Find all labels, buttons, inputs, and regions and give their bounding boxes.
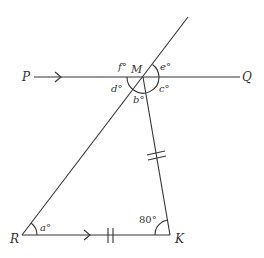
angle-arc-a (31, 223, 37, 235)
transversal-line (22, 17, 188, 235)
angle-label-a: a° (40, 222, 51, 233)
angle-arc-d (127, 77, 134, 90)
angle-label-f: f° (117, 61, 127, 72)
angle-label-d: d° (111, 83, 122, 94)
angle-label-b: b° (133, 94, 144, 105)
label-m: M (130, 63, 143, 76)
angle-label-e: e° (160, 61, 171, 72)
angle-label-c: c° (159, 83, 170, 94)
angle-arc-e (153, 65, 160, 78)
label-q: Q (242, 70, 252, 84)
angle-arc-c-b (134, 77, 160, 93)
label-r: R (9, 232, 19, 246)
label-k: K (174, 232, 185, 246)
angle-label-k: 80° (139, 214, 157, 225)
angle-arc-k (155, 220, 168, 235)
label-p: P (21, 70, 31, 84)
geometry-diagram: P Q M R K f° e° d° c° b° a° 80° (0, 0, 264, 258)
